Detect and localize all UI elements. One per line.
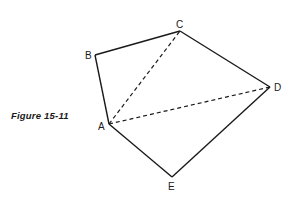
solid-edges bbox=[95, 31, 270, 177]
edge-ab bbox=[95, 55, 109, 124]
vertex-label-d: D bbox=[274, 82, 281, 93]
edge-ea bbox=[109, 124, 172, 177]
edge-cd bbox=[180, 31, 270, 87]
edge-bc bbox=[95, 31, 180, 55]
diagonal-ac bbox=[109, 31, 180, 124]
edge-de bbox=[172, 87, 270, 177]
vertex-label-b: B bbox=[85, 50, 92, 61]
diagonal-ad bbox=[109, 87, 270, 124]
vertex-label-a: A bbox=[98, 121, 105, 132]
vertex-label-c: C bbox=[176, 19, 183, 30]
pentagon-diagram: A B C D E bbox=[0, 0, 298, 210]
vertex-label-e: E bbox=[168, 181, 175, 192]
